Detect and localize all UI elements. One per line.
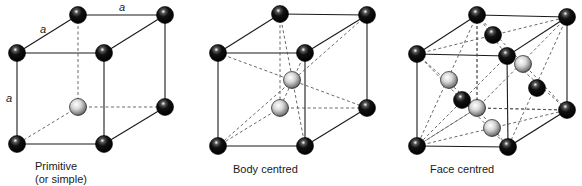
corner-atom (499, 48, 516, 65)
corner-atom (9, 136, 26, 153)
body-centred-cell (210, 6, 376, 155)
right-face-centre-atom (529, 80, 546, 97)
front-face-centre-atom (454, 92, 471, 109)
lattice-constant-label-depth: a (40, 24, 46, 35)
corner-atom (157, 7, 174, 24)
cube-edge (417, 146, 508, 147)
corner-atom (297, 45, 314, 62)
cube-edge (417, 15, 477, 54)
cube-edge (507, 56, 508, 147)
cube-edge (305, 108, 367, 146)
top-face-centre-atom (485, 27, 502, 44)
corner-atom (70, 99, 87, 116)
caption-face-centred: Face centred (430, 163, 494, 176)
cube-edge (17, 15, 78, 53)
corner-atom (500, 139, 517, 156)
bottom-face-centre-atom (484, 120, 501, 137)
corner-atom (409, 138, 426, 155)
corner-atom (559, 102, 576, 119)
corner-atom (9, 45, 26, 62)
corner-atom (70, 7, 87, 24)
face-centred-cell (409, 7, 576, 156)
corner-atom (96, 136, 113, 153)
caption-body-centred-line1: Body centred (233, 163, 298, 176)
corner-atom (359, 7, 376, 24)
corner-atom (272, 6, 289, 23)
lattice-constant-label-height: a (6, 93, 12, 104)
cube-edge (104, 15, 165, 53)
primitive-cell (9, 7, 174, 153)
crystal-lattice-figure: a a a Primitive (or simple) Body centred… (0, 0, 582, 186)
corner-atom (157, 99, 174, 116)
cube-edge (280, 14, 367, 15)
cube-edge (507, 17, 567, 56)
back-face-centre-atom (515, 56, 532, 73)
lattice-constant-label-top: a (119, 2, 125, 13)
caption-primitive: Primitive (or simple) (35, 160, 87, 186)
cube-edge (477, 15, 567, 17)
corner-atom (469, 100, 486, 117)
corner-atom (469, 7, 486, 24)
corner-atom (210, 45, 227, 62)
corner-atom (272, 100, 289, 117)
cube-edge (508, 110, 567, 147)
construction-line (477, 108, 567, 110)
hidden-cube-edge (17, 107, 78, 144)
caption-body-centred: Body centred (233, 163, 298, 176)
unit-cell-drawings (0, 0, 582, 186)
corner-atom (96, 45, 113, 62)
body-centre-atom (284, 72, 301, 89)
cube-edge (417, 54, 507, 56)
left-face-centre-atom (441, 72, 458, 89)
corner-atom (559, 9, 576, 26)
hidden-cube-edge (218, 108, 280, 146)
corner-atom (210, 138, 227, 155)
corner-atom (359, 100, 376, 117)
cube-edge (104, 107, 165, 144)
caption-primitive-line1: Primitive (35, 160, 87, 173)
caption-face-centred-line1: Face centred (430, 163, 494, 176)
corner-atom (297, 138, 314, 155)
cube-edge (305, 15, 367, 53)
corner-atom (409, 46, 426, 63)
cube-edge (218, 14, 280, 53)
caption-primitive-line2: (or simple) (35, 173, 87, 186)
